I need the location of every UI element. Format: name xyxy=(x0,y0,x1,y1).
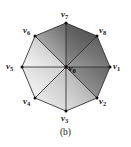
vertex-label-v0-base: v xyxy=(69,63,73,73)
vertex-label-v2: v2 xyxy=(99,97,106,106)
vertex-label-v5: v5 xyxy=(6,62,13,71)
vertex-label-v1: v1 xyxy=(113,62,120,71)
vertex-dot-v0 xyxy=(64,65,67,68)
vertex-label-v8: v8 xyxy=(99,26,106,35)
vertex-label-v3: v3 xyxy=(61,114,68,123)
octagon-fan-figure: v0 v1 v2 v3 v4 v5 v6 v7 v8 (b) xyxy=(0,0,131,147)
octagon-mesh-svg xyxy=(0,0,131,147)
vertex-dot-v4 xyxy=(34,97,37,100)
vertex-label-v7-sub: 7 xyxy=(65,13,68,20)
vertex-label-v0: v0 xyxy=(69,64,76,73)
vertex-label-v0-sub: 0 xyxy=(73,67,76,74)
vertex-label-v4-sub: 4 xyxy=(27,100,30,107)
vertex-label-v6: v6 xyxy=(23,26,30,35)
vertex-label-v3-sub: 3 xyxy=(65,117,68,124)
vertex-label-v4: v4 xyxy=(23,97,30,106)
vertex-dot-v7 xyxy=(65,22,68,25)
vertex-label-v8-sub: 8 xyxy=(103,29,106,36)
vertex-label-v1-sub: 1 xyxy=(117,65,120,72)
vertex-label-v6-sub: 6 xyxy=(27,29,30,36)
vertex-dot-v1 xyxy=(109,66,112,69)
figure-caption: (b) xyxy=(0,128,131,138)
vertex-dot-v5 xyxy=(21,66,24,69)
vertex-label-v5-sub: 5 xyxy=(10,65,13,72)
vertex-dot-v6 xyxy=(34,35,37,38)
vertex-label-v2-sub: 2 xyxy=(103,100,106,107)
vertex-label-v7: v7 xyxy=(61,10,68,19)
